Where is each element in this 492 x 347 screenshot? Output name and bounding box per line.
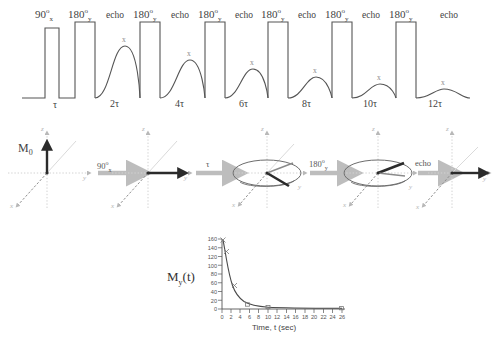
chart-ytick-160: 160 <box>202 236 217 242</box>
decay-chart-panel <box>0 0 492 347</box>
decay-markers <box>221 238 344 310</box>
chart-ytick-60: 60 <box>202 280 217 286</box>
chart-ytick-120: 120 <box>202 254 217 260</box>
decay-curve <box>223 240 342 308</box>
chart-ytick-80: 80 <box>202 271 217 277</box>
chart-y-ticks <box>218 239 222 309</box>
chart-ytick-140: 140 <box>202 245 217 251</box>
chart-ytick-0: 0 <box>202 306 217 312</box>
chart-ytick-100: 100 <box>202 263 217 269</box>
chart-x-axis-title: Time, t (sec) <box>252 324 296 332</box>
chart-y-axis-title: My(t) <box>167 270 195 287</box>
chart-ytick-40: 40 <box>202 289 217 295</box>
decay-chart-svg <box>0 0 492 347</box>
chart-ytick-20: 20 <box>202 298 217 304</box>
chart-xtick-26: 26 <box>336 314 348 320</box>
chart-x-ticks <box>222 309 342 313</box>
